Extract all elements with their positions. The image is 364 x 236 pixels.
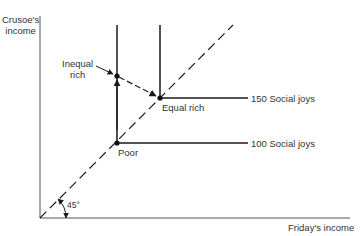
y-axis-label-line2: income <box>2 25 39 36</box>
y-axis-label-line1: Crusoe's <box>2 14 39 25</box>
indifference-curve-100 <box>117 25 248 143</box>
diagram-canvas <box>0 0 364 236</box>
arrow-inequal-to-equal <box>119 77 156 96</box>
curve-150-label: 150 Social joys <box>251 93 315 104</box>
inequal-rich-label: Inequal rich <box>62 58 93 80</box>
indifference-curve-150 <box>160 25 248 98</box>
equality-45-degree-line <box>40 25 233 218</box>
angle-label: 45° <box>67 200 80 211</box>
poor-label: Poor <box>118 147 138 158</box>
point-inequal-rich <box>114 73 119 78</box>
inequal-rich-label-line2: rich <box>62 69 93 80</box>
curve-100-label: 100 Social joys <box>251 138 315 149</box>
inequal-rich-label-line1: Inequal <box>62 58 93 69</box>
x-axis-label: Friday's income <box>288 222 354 233</box>
point-equal-rich <box>157 95 162 100</box>
point-poor <box>114 140 119 145</box>
y-axis-label: Crusoe's income <box>2 14 39 36</box>
equal-rich-label: Equal rich <box>162 102 204 113</box>
inequal-label-pointer <box>96 66 113 74</box>
angle-arc <box>58 199 66 218</box>
